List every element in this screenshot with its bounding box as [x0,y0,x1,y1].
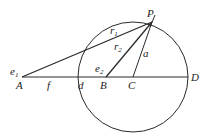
label-r1: r1 [110,24,118,38]
geometry-diagram: P A B C D r1 r2 a f d e1 e2 [0,0,208,138]
label-C: C [128,79,136,91]
label-e1: e1 [10,65,18,79]
label-a: a [143,47,149,59]
segment-AP-r1 [22,22,152,77]
label-d: d [78,79,84,91]
label-A: A [15,79,23,91]
label-B: B [100,79,107,91]
label-f: f [47,79,52,91]
label-P: P [146,7,154,19]
label-r2: r2 [114,40,122,54]
label-e2: e2 [95,62,104,76]
label-D: D [190,71,199,83]
